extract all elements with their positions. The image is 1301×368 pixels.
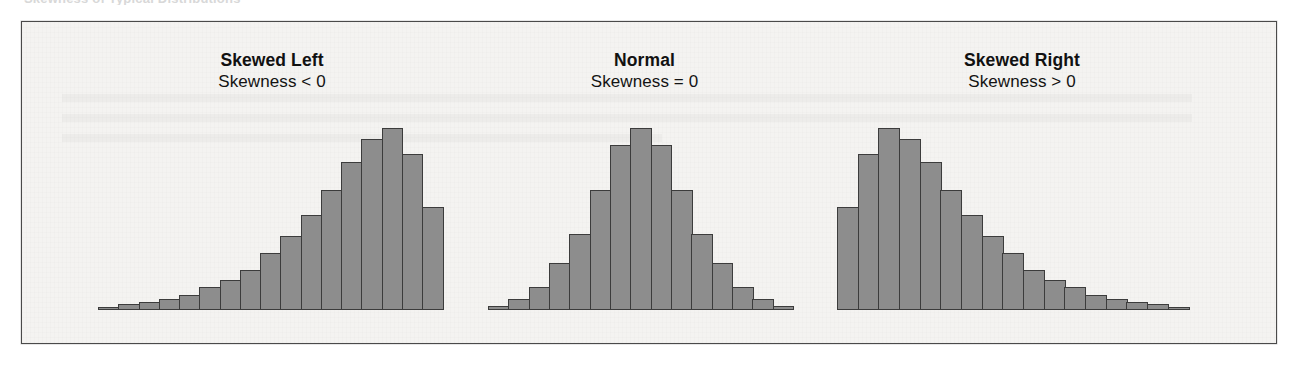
histogram-bar <box>549 263 571 311</box>
histogram-bar <box>1168 307 1190 310</box>
histogram-bar <box>488 306 510 310</box>
histogram-bar <box>773 306 795 310</box>
histogram-bar <box>1126 302 1148 310</box>
histogram-bar <box>590 190 612 310</box>
panel-subtitle-skewed-left: Skewness < 0 <box>77 72 467 92</box>
histogram-bar <box>240 270 262 310</box>
histogram-skewed-left <box>98 120 466 310</box>
histogram-bar <box>179 295 201 310</box>
histogram-bar <box>630 128 652 310</box>
histogram-bar <box>691 234 713 310</box>
panel-subtitle-normal: Skewness = 0 <box>467 72 822 92</box>
figure-frame: Skewed Left Skewness < 0 Normal Skewness… <box>21 21 1277 344</box>
panel-skewed-right: Skewed Right Skewness > 0 <box>822 22 1222 343</box>
histogram-bar <box>1064 287 1086 310</box>
histogram-bar <box>139 302 161 310</box>
histogram-bar <box>1023 270 1045 310</box>
histogram-bar <box>1002 253 1024 310</box>
histogram-skewed-right <box>837 120 1212 310</box>
panel-skewed-left: Skewed Left Skewness < 0 <box>77 22 467 343</box>
histogram-bar <box>920 162 942 310</box>
panel-title-normal: Normal <box>467 50 822 71</box>
histogram-bar <box>280 236 302 310</box>
histogram-bar <box>610 145 632 310</box>
histogram-bar <box>732 287 754 310</box>
histogram-bar <box>159 299 181 310</box>
histogram-bar <box>712 263 734 311</box>
histogram-bar <box>1147 304 1169 310</box>
panel-title-skewed-left: Skewed Left <box>77 50 467 71</box>
panel-normal: Normal Skewness = 0 <box>467 22 822 343</box>
histogram-bar <box>529 287 551 310</box>
panel-subtitle-skewed-right: Skewness > 0 <box>822 72 1222 92</box>
histogram-bar <box>1044 280 1066 310</box>
histogram-bar <box>651 145 673 310</box>
bleed-text-above-figure: Skewness of Typical Distributions <box>24 0 444 5</box>
histogram-bar <box>1106 299 1128 310</box>
histogram-bar <box>858 154 880 310</box>
histogram-bar <box>382 128 404 310</box>
panel-title-skewed-right: Skewed Right <box>822 50 1222 71</box>
figure-page: Skewness of Typical Distributions Skewed… <box>0 0 1301 368</box>
histogram-bar <box>671 190 693 310</box>
histogram-bar <box>422 207 444 310</box>
histogram-bar <box>940 190 962 310</box>
histogram-bar <box>98 307 120 310</box>
histogram-bar <box>837 207 859 310</box>
histogram-bar <box>982 236 1004 310</box>
histogram-bar <box>361 139 383 310</box>
histogram-bar <box>752 299 774 310</box>
histogram-bar <box>899 139 921 310</box>
histogram-bar <box>878 128 900 310</box>
histogram-bar <box>260 253 282 310</box>
histogram-bar <box>508 299 530 310</box>
histogram-bar <box>118 304 140 310</box>
histogram-bar <box>961 215 983 310</box>
histogram-bar <box>1085 295 1107 310</box>
histogram-bar <box>321 190 343 310</box>
histogram-bar <box>199 287 221 310</box>
histogram-bar <box>220 280 242 310</box>
histogram-normal <box>488 120 814 310</box>
histogram-bar <box>569 234 591 310</box>
histogram-bar <box>402 154 424 310</box>
histogram-bar <box>341 162 363 310</box>
histogram-bar <box>301 215 323 310</box>
